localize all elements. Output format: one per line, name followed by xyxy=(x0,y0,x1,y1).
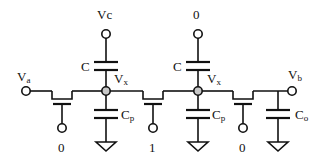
circuit-diagram: Va Vc C Vx Cp 0 1 0 C Vx Cp 0 Vb Co xyxy=(0,0,323,166)
node-vx-2-label: Vx xyxy=(207,72,221,87)
parasitic-cap-label-2: Cp xyxy=(212,108,225,123)
t3-gate-terminal-icon xyxy=(239,124,247,132)
ground-icon xyxy=(268,142,288,151)
vb-terminal-icon xyxy=(288,87,296,95)
node-vx-2-icon xyxy=(194,87,202,95)
parasitic-cap-label-1: Cp xyxy=(121,108,134,123)
node-vx-1-label: Vx xyxy=(114,72,128,87)
coupling-cap-label-2: C xyxy=(173,60,182,73)
ground-icon xyxy=(96,142,116,151)
zero-top-label: 0 xyxy=(193,8,200,21)
circuit-schematic xyxy=(0,0,323,166)
t3-gate-label: 0 xyxy=(239,141,246,154)
t1-gate-label: 0 xyxy=(58,141,65,154)
t2-gate-label: 1 xyxy=(149,141,156,154)
t2-gate-terminal-icon xyxy=(149,124,157,132)
zero-terminal-icon xyxy=(194,30,202,38)
ground-icon xyxy=(188,142,208,151)
coupling-cap-label-1: C xyxy=(81,60,90,73)
vb-label: Vb xyxy=(288,68,302,83)
node-vx-1-icon xyxy=(102,87,110,95)
vc-label: Vc xyxy=(97,8,112,21)
output-cap-label: Co xyxy=(295,108,308,123)
vc-terminal-icon xyxy=(102,30,110,38)
t1-gate-terminal-icon xyxy=(58,124,66,132)
va-terminal-icon xyxy=(22,87,30,95)
va-label: Va xyxy=(17,70,30,85)
